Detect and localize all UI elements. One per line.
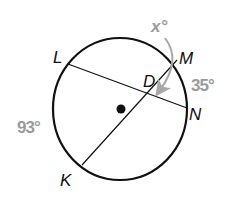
arc-measure-LK: 93° [17, 118, 41, 137]
chord-MK [82, 60, 177, 165]
point-label-K: K [60, 171, 72, 190]
circle-chord-diagram: L M D N K 35° 93° x° [0, 0, 228, 199]
point-label-D: D [143, 72, 155, 91]
point-label-M: M [179, 49, 194, 68]
unknown-angle-x: x° [150, 17, 167, 36]
chord-LN [68, 64, 187, 108]
point-label-L: L [53, 48, 62, 67]
center-dot [117, 105, 126, 114]
point-label-N: N [189, 105, 202, 124]
arc-measure-MN: 35° [191, 76, 215, 95]
